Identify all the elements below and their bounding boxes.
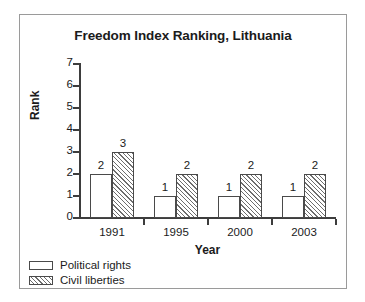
y-axis-line xyxy=(79,63,81,219)
y-axis-tick xyxy=(73,151,79,153)
y-axis-tick-label: 3 xyxy=(47,144,73,156)
bar-value-label: 1 xyxy=(218,181,240,193)
x-axis-title: Year xyxy=(79,243,336,257)
bar-value-label: 1 xyxy=(282,181,304,193)
y-axis-tick-label: 4 xyxy=(47,122,73,134)
bar-2003-civil-liberties xyxy=(304,174,326,218)
y-axis-tick xyxy=(73,173,79,175)
chart-title: Freedom Index Ranking, Lithuania xyxy=(19,28,347,43)
y-axis-tick-label: 6 xyxy=(47,78,73,90)
legend-swatch-civil-liberties xyxy=(29,276,53,285)
x-axis-category-label: 1991 xyxy=(80,226,144,238)
y-axis-tick-label: 1 xyxy=(47,188,73,200)
y-axis-tick xyxy=(73,107,79,109)
y-axis-tick xyxy=(73,195,79,197)
legend-label-political-rights: Political rights xyxy=(60,259,131,271)
legend-swatch-political-rights xyxy=(29,261,53,270)
y-axis-tick xyxy=(73,217,79,219)
y-axis-tick-label: 7 xyxy=(47,56,73,68)
bar-value-label: 3 xyxy=(112,137,134,149)
bar-1995-political-rights xyxy=(154,196,176,218)
bar-2000-political-rights xyxy=(218,196,240,218)
y-axis-tick-label: 5 xyxy=(47,100,73,112)
x-axis-tick xyxy=(271,219,273,225)
y-axis-tick xyxy=(73,129,79,131)
bar-1991-political-rights xyxy=(90,174,112,218)
x-axis-category-label: 2000 xyxy=(208,226,272,238)
x-axis-category-label: 2003 xyxy=(272,226,336,238)
bar-2003-political-rights xyxy=(282,196,304,218)
x-axis-tick xyxy=(207,219,209,225)
legend-item-civil-liberties: Civil liberties xyxy=(29,273,131,287)
y-axis-tick xyxy=(73,63,79,65)
legend-item-political-rights: Political rights xyxy=(29,258,131,272)
chart-figure: Freedom Index Ranking, Lithuania Rank Ye… xyxy=(0,0,365,302)
y-axis-tick xyxy=(73,85,79,87)
bar-value-label: 2 xyxy=(304,159,326,171)
bar-value-label: 2 xyxy=(176,159,198,171)
bar-1991-civil-liberties xyxy=(112,152,134,218)
x-axis-tick xyxy=(335,219,337,225)
legend-label-civil-liberties: Civil liberties xyxy=(60,274,125,286)
chart-legend: Political rights Civil liberties xyxy=(29,258,131,288)
bar-1995-civil-liberties xyxy=(176,174,198,218)
bar-value-label: 1 xyxy=(154,181,176,193)
bar-value-label: 2 xyxy=(240,159,262,171)
x-axis-category-label: 1995 xyxy=(144,226,208,238)
y-axis-title: Rank xyxy=(28,91,42,120)
bar-2000-civil-liberties xyxy=(240,174,262,218)
y-axis-tick-label: 0 xyxy=(47,210,73,222)
bar-value-label: 2 xyxy=(90,159,112,171)
y-axis-tick-label: 2 xyxy=(47,166,73,178)
x-axis-tick xyxy=(143,219,145,225)
